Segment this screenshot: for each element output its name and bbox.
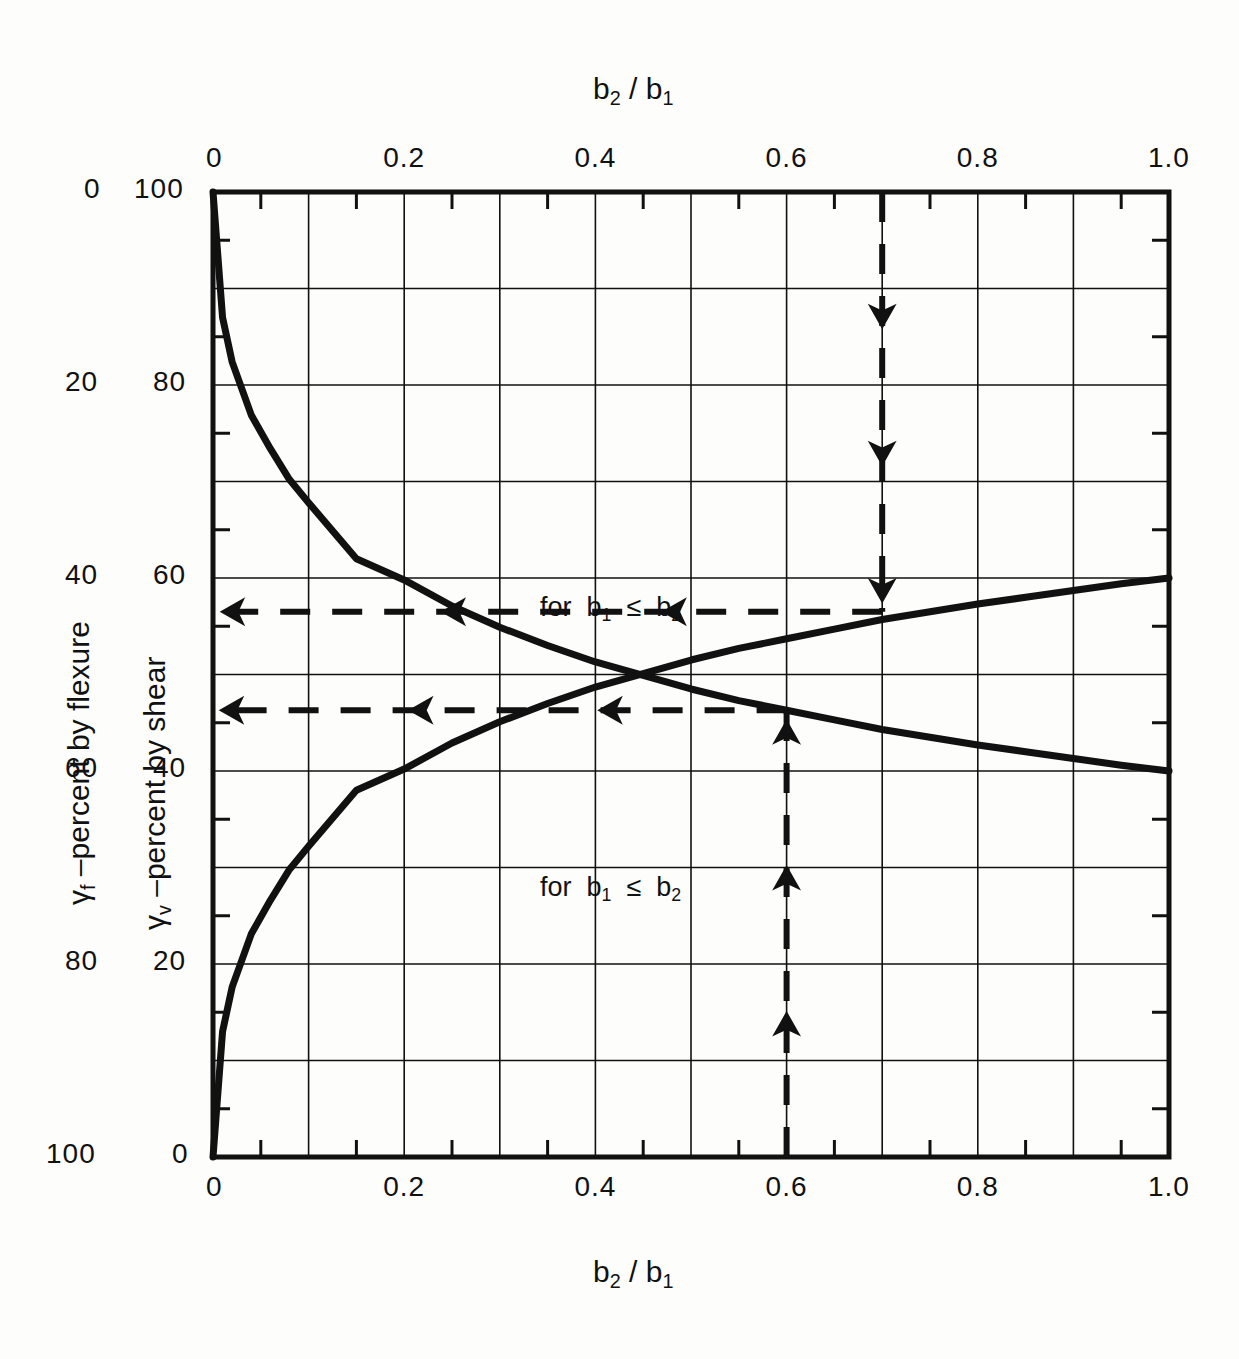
y-tick-label-outer-5: 100 — [46, 1138, 96, 1170]
x-tick-label-bottom-1: 0.2 — [383, 1171, 425, 1203]
x-tick-label-bottom-3: 0.6 — [766, 1171, 808, 1203]
x-tick-label-bottom-5: 1.0 — [1148, 1171, 1190, 1203]
y-tick-label-outer-3: 60 — [65, 752, 98, 784]
y-tick-label-inner-0: 0 — [172, 1138, 189, 1170]
y-tick-label-inner-1: 20 — [153, 945, 186, 977]
x-tick-label-top-4: 0.8 — [957, 142, 999, 174]
flexure-curve-annotation: for b1 ≤ b2 — [540, 592, 681, 626]
x-tick-label-bottom-0: 0 — [206, 1171, 223, 1203]
shear-curve-annotation: for b1 ≤ b2 — [540, 872, 681, 906]
y-tick-label-inner-4: 80 — [153, 366, 186, 398]
gridlines — [213, 192, 1169, 1157]
x-tick-label-bottom-4: 0.8 — [957, 1171, 999, 1203]
y-tick-label-inner-2: 40 — [153, 752, 186, 784]
x-tick-label-top-2: 0.4 — [574, 142, 616, 174]
y-tick-label-outer-0: 0 — [84, 173, 101, 205]
figure-canvas: b2 / b1 b2 / b1 γf –percent by flexure γ… — [0, 0, 1239, 1359]
x-tick-label-top-3: 0.6 — [766, 142, 808, 174]
y-tick-label-inner-3: 60 — [153, 559, 186, 591]
y-tick-label-inner-5: 100 — [134, 173, 184, 205]
x-tick-label-top-5: 1.0 — [1148, 142, 1190, 174]
x-tick-label-bottom-2: 0.4 — [574, 1171, 616, 1203]
y-tick-label-outer-4: 80 — [65, 945, 98, 977]
x-tick-label-top-0: 0 — [206, 142, 223, 174]
x-tick-label-top-1: 0.2 — [383, 142, 425, 174]
y-tick-label-outer-2: 40 — [65, 559, 98, 591]
y-tick-label-outer-1: 20 — [65, 366, 98, 398]
